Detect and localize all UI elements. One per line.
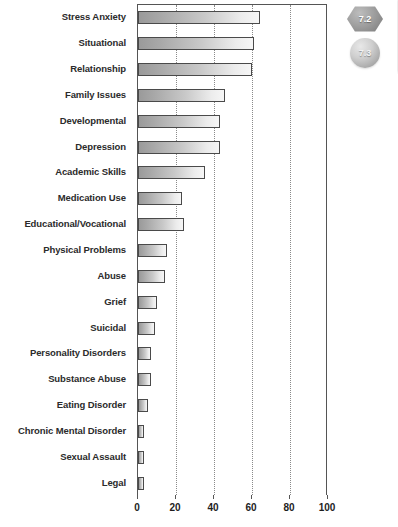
category-label: Academic Skills — [0, 166, 126, 177]
category-label: Grief — [0, 296, 126, 307]
category-label: Sexual Assault — [0, 451, 126, 462]
page-badges: 7.2 7.3 — [336, 0, 397, 80]
bar — [138, 218, 184, 231]
page-badge-circle[interactable]: 7.3 — [350, 38, 380, 68]
x-axis-tick-label: 0 — [134, 502, 140, 513]
gridline — [290, 5, 291, 495]
x-axis-tick-label: 40 — [207, 502, 218, 513]
category-label: Relationship — [0, 63, 126, 74]
bar — [138, 451, 144, 464]
bar — [138, 322, 155, 335]
category-label: Depression — [0, 141, 126, 152]
x-axis-tick — [175, 495, 176, 499]
category-label: Medication Use — [0, 192, 126, 203]
category-label: Suicidal — [0, 322, 126, 333]
bar — [138, 11, 260, 24]
bar — [138, 63, 252, 76]
category-label: Personality Disorders — [0, 347, 126, 358]
bar — [138, 166, 205, 179]
gridline — [252, 5, 253, 495]
category-label: Eating Disorder — [0, 399, 126, 410]
category-label: Developmental — [0, 115, 126, 126]
category-label: Physical Problems — [0, 244, 126, 255]
x-axis-tick-label: 100 — [319, 502, 336, 513]
category-label: Legal — [0, 477, 126, 488]
bar — [138, 270, 165, 283]
bar — [138, 244, 167, 257]
category-label: Situational — [0, 37, 126, 48]
x-axis-tick — [289, 495, 290, 499]
x-axis-tick — [251, 495, 252, 499]
bar — [138, 373, 151, 386]
category-label: Stress Anxiety — [0, 11, 126, 22]
category-axis-labels: Stress AnxietySituationalRelationshipFam… — [0, 0, 132, 497]
x-axis: 020406080100 — [137, 495, 327, 525]
bar — [138, 89, 225, 102]
page-badge-hexagon[interactable]: 7.2 — [347, 4, 383, 34]
x-axis-tick — [213, 495, 214, 499]
category-label: Substance Abuse — [0, 373, 126, 384]
gridline — [176, 5, 177, 495]
bar — [138, 192, 182, 205]
gridline — [214, 5, 215, 495]
category-label: Educational/Vocational — [0, 218, 126, 229]
x-axis-tick — [137, 495, 138, 499]
x-axis-tick-label: 60 — [245, 502, 256, 513]
bar — [138, 37, 254, 50]
bar — [138, 347, 151, 360]
bar — [138, 296, 157, 309]
bar — [138, 399, 148, 412]
x-axis-tick-label: 80 — [283, 502, 294, 513]
bar — [138, 477, 144, 490]
bar — [138, 141, 220, 154]
x-axis-tick-label: 20 — [169, 502, 180, 513]
plot-area — [137, 4, 327, 495]
x-axis-tick — [327, 495, 328, 499]
bar — [138, 425, 144, 438]
bar — [138, 115, 220, 128]
category-label: Chronic Mental Disorder — [0, 425, 126, 436]
category-label: Abuse — [0, 270, 126, 281]
category-label: Family Issues — [0, 89, 126, 100]
